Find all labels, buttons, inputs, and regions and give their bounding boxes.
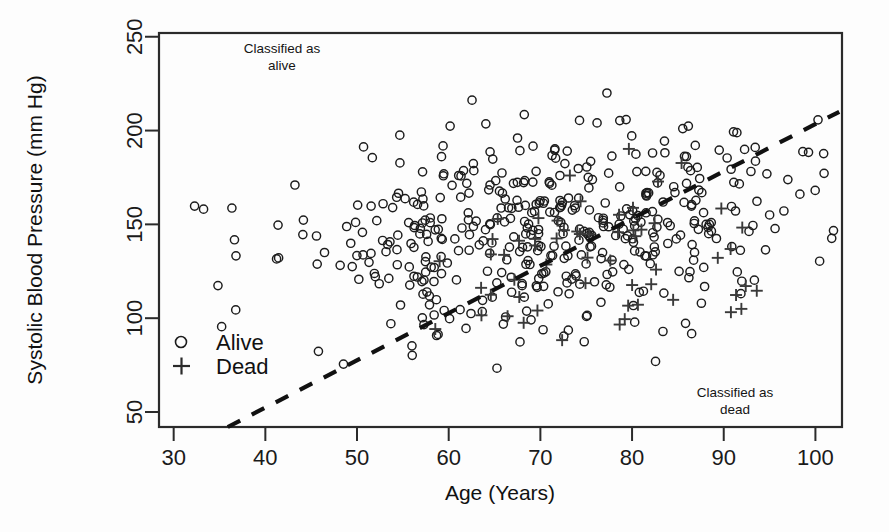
data-point-alive [351, 218, 359, 226]
legend-alive-label: Alive [216, 330, 264, 355]
data-point-alive [396, 131, 404, 139]
data-point-alive [456, 306, 464, 314]
data-point-alive [651, 357, 659, 365]
data-point-alive [693, 163, 701, 171]
data-point-alive [385, 274, 393, 282]
data-point-alive [510, 233, 518, 241]
annotation-classified-alive: Classified as alive [244, 41, 321, 73]
data-point-dead [627, 224, 639, 236]
data-point-alive [406, 281, 414, 289]
data-point-alive [274, 221, 282, 229]
data-point-alive [690, 248, 698, 256]
data-point-alive [681, 319, 689, 327]
data-point-alive [659, 327, 667, 335]
data-point-alive [448, 181, 456, 189]
data-point-alive [605, 169, 613, 177]
data-point-alive [747, 167, 755, 175]
data-point-alive [585, 206, 593, 214]
data-point-alive [539, 326, 547, 334]
data-point-alive [601, 199, 609, 207]
data-point-alive [740, 145, 748, 153]
data-point-alive [468, 96, 476, 104]
data-point-alive [608, 152, 616, 160]
data-point-alive [670, 183, 678, 191]
data-point-alive [312, 232, 320, 240]
data-point-alive [544, 300, 552, 308]
data-point-alive [784, 175, 792, 183]
data-point-alive [771, 224, 779, 232]
data-point-dead [667, 294, 679, 306]
data-point-alive [465, 189, 473, 197]
annotation-alive-line2: alive [268, 58, 296, 73]
annotation-dead-line1: Classified as [697, 385, 774, 400]
data-point-alive [396, 159, 404, 167]
annotation-classified-dead: Classified as dead [697, 385, 774, 417]
data-point-alive [314, 347, 322, 355]
data-point-alive [735, 180, 743, 188]
data-point-alive [660, 137, 668, 145]
data-point-alive [359, 251, 367, 259]
data-point-alive [437, 270, 445, 278]
data-point-dead [623, 143, 635, 155]
data-point-alive [367, 249, 375, 257]
data-point-alive [436, 194, 444, 202]
data-point-alive [489, 155, 497, 163]
data-point-alive [816, 257, 824, 265]
data-point-alive [485, 186, 493, 194]
data-point-alive [354, 201, 362, 209]
x-tick-label: 80 [620, 445, 644, 470]
annotation-dead-line2: dead [720, 402, 750, 417]
data-point-dead [725, 306, 737, 318]
data-point-alive [493, 364, 501, 372]
data-point-alive [632, 150, 640, 158]
data-point-alive [580, 338, 588, 346]
data-point-alive [228, 204, 236, 212]
data-point-alive [446, 122, 454, 130]
data-point-alive [452, 276, 460, 284]
y-tick-label: 100 [123, 300, 148, 337]
data-point-alive [401, 195, 409, 203]
data-point-alive [508, 288, 516, 296]
y-tick-label: 50 [123, 400, 148, 424]
data-point-alive [664, 239, 672, 247]
data-point-alive [633, 167, 641, 175]
data-point-alive [432, 296, 440, 304]
data-point-alive [467, 309, 475, 317]
x-tick-label: 90 [711, 445, 735, 470]
data-point-alive [575, 116, 583, 124]
data-point-dead [715, 203, 727, 215]
data-point-alive [430, 311, 438, 319]
data-point-alive [675, 267, 683, 275]
data-point-alive [749, 221, 757, 229]
data-point-alive [320, 248, 328, 256]
data-point-alive [820, 169, 828, 177]
data-point-alive [694, 225, 702, 233]
data-point-alive [766, 211, 774, 219]
data-point-dead [751, 285, 763, 297]
data-point-alive [465, 231, 473, 239]
data-point-alive [458, 224, 466, 232]
data-point-alive [715, 146, 723, 154]
data-point-alive [232, 252, 240, 260]
data-point-alive [387, 320, 395, 328]
data-point-alive [465, 246, 473, 254]
data-point-alive [483, 267, 491, 275]
x-tick-label: 60 [436, 445, 460, 470]
data-point-alive [799, 148, 807, 156]
data-point-alive [358, 228, 366, 236]
data-point-alive [214, 281, 222, 289]
data-point-alive [190, 202, 198, 210]
data-point-alive [523, 307, 531, 315]
data-point-alive [733, 268, 741, 276]
data-point-alive [486, 249, 494, 257]
data-point-alive [625, 265, 633, 273]
data-point-alive [696, 174, 704, 182]
data-point-alive [437, 252, 445, 260]
data-point-alive [365, 258, 373, 266]
data-point-alive [690, 256, 698, 264]
data-point-alive [582, 260, 590, 268]
decision-boundary-line [228, 112, 839, 427]
data-point-alive [389, 204, 397, 212]
y-tick-label: 200 [123, 112, 148, 149]
data-point-alive [682, 179, 690, 187]
